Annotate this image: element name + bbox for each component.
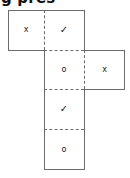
outline-right-edge-center-column <box>84 89 85 170</box>
letter-o-icon: o <box>62 66 67 74</box>
check-mark-icon: ✓ <box>60 104 68 114</box>
fold-line-horizontal-row3-row4 <box>44 129 84 130</box>
cube-net-diagram: x ✓ o x ✓ o <box>0 0 130 178</box>
fold-line-vertical-top <box>44 10 45 50</box>
letter-o-icon: o <box>62 146 67 154</box>
outline-left-edge-center-column <box>44 50 45 170</box>
outline-bottom-edge-right-cell <box>84 89 125 90</box>
net-face-top-left: x <box>8 10 44 50</box>
outline-top-edge-right-cell <box>84 50 125 51</box>
outline-bottom-edge <box>44 169 85 170</box>
fold-line-horizontal-row1-row2 <box>44 50 84 51</box>
net-face-second-right: x <box>84 50 125 89</box>
outline-left-edge-top <box>8 10 9 50</box>
fold-line-horizontal-row2-row3 <box>44 89 84 90</box>
outline-right-edge-top-center <box>84 10 85 50</box>
net-face-third-center: ✓ <box>44 89 84 129</box>
net-face-second-center: o <box>44 50 84 89</box>
net-face-top-center: ✓ <box>44 10 84 50</box>
outline-bottom-edge-top-left <box>8 50 44 51</box>
outline-top-edge <box>8 10 84 11</box>
outline-right-edge-right-cell <box>124 50 125 89</box>
fold-line-vertical-row2 <box>84 50 85 89</box>
net-face-bottom-center: o <box>44 129 84 170</box>
letter-x-icon: x <box>24 26 29 34</box>
diagram-page: g pres x ✓ o x ✓ o <box>0 0 130 178</box>
letter-x-icon: x <box>102 66 107 74</box>
check-mark-icon: ✓ <box>60 25 68 35</box>
